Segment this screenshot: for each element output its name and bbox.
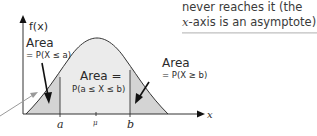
x-axis-label: x — [207, 109, 213, 120]
y-axis-arrow-icon — [20, 15, 27, 23]
normal-distribution-diagram: f(x) x a μ b Area = P(X ≤ a) Area = P(X … — [0, 0, 317, 136]
y-axis-label: f(x) — [29, 20, 48, 33]
left-area-title: Area — [26, 36, 54, 50]
center-area-title: Area = — [80, 69, 121, 83]
tick-label-a: a — [57, 118, 64, 131]
right-area-title: Area — [162, 56, 190, 70]
x-axis-arrow-icon — [197, 111, 205, 118]
tick-label-b: b — [127, 118, 134, 131]
right-area-formula: = P(X ≥ b) — [162, 70, 207, 80]
asymptote-pointer-arrowhead-icon — [30, 92, 38, 98]
center-area-formula: P(a ≤ X ≤ b) — [72, 84, 125, 94]
tick-label-mu: μ — [93, 119, 98, 127]
left-area-pointer — [42, 63, 48, 96]
left-area-formula: = P(X ≤ a) — [26, 50, 71, 60]
